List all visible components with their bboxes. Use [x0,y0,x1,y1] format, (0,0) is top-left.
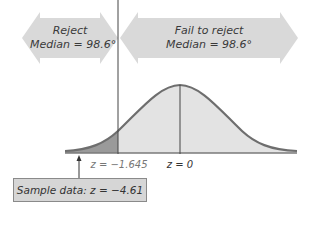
fail-to-reject-label: Fail to reject Median = 98.6° [138,24,280,52]
reject-label-line1: Reject [30,24,110,38]
sample-data-box: Sample data: z = −4.61 [13,178,147,202]
reject-label: Reject Median = 98.6° [30,24,110,52]
reject-label-line2: Median = 98.6° [30,38,110,52]
fail-to-reject-label-line1: Fail to reject [138,24,280,38]
sample-pointer-arrowhead [77,155,82,161]
critical-z-label: z = −1.645 [88,159,150,170]
center-z-label: z = 0 [160,159,200,170]
fail-to-reject-label-line2: Median = 98.6° [138,38,280,52]
sample-data-label: Sample data: z = −4.61 [17,184,143,196]
